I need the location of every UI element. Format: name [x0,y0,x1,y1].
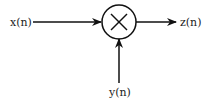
multiplier-diagram: x(n) z(n) y(n) [0,0,207,101]
input-x-label: x(n) [10,16,32,29]
multiply-node [102,5,136,39]
input-y-label: y(n) [108,86,131,99]
output-z-label: z(n) [180,16,201,29]
